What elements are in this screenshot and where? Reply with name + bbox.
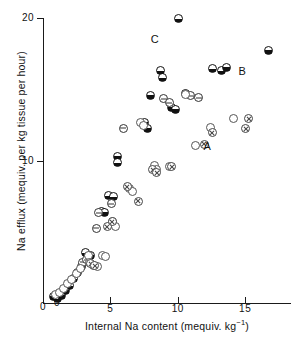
group-label-B: B xyxy=(238,65,246,77)
group-label-A: A xyxy=(203,140,211,152)
scatter-chart: 05101501020 Na efflux (mequiv. per kg ti… xyxy=(0,0,304,341)
y-tick-10 xyxy=(37,161,43,162)
y-tick-20 xyxy=(37,18,43,19)
data-point-circle-with-cross xyxy=(241,124,250,133)
x-tick-label-15: 15 xyxy=(235,304,255,314)
data-point-circle-with-bar xyxy=(92,224,101,233)
data-point-circle-with-cross xyxy=(152,168,161,177)
data-point-half-filled-circle xyxy=(222,63,231,72)
data-point-circle-with-cross xyxy=(167,162,176,171)
x-axis-label: Internal Na content (mequiv. kg−1) xyxy=(43,318,291,332)
data-point-open-circle xyxy=(101,252,110,261)
data-point-half-filled-circle xyxy=(174,14,183,23)
data-point-open-circle xyxy=(139,121,148,130)
data-point-half-filled-circle xyxy=(158,73,167,82)
x-tick-label-5: 5 xyxy=(100,304,120,314)
x-tick-label-10: 10 xyxy=(168,304,188,314)
data-point-circle-with-cross xyxy=(244,114,253,123)
data-point-half-filled-circle xyxy=(146,91,155,100)
data-point-circle-with-bar xyxy=(194,93,203,102)
data-point-half-filled-circle xyxy=(113,158,122,167)
data-point-circle-with-bar xyxy=(165,98,174,107)
data-point-open-circle xyxy=(229,114,238,123)
data-point-open-circle xyxy=(181,90,190,99)
data-point-open-circle xyxy=(76,264,85,273)
y-axis-label: Na efflux (mequiv. per kg tissue per hou… xyxy=(15,61,27,251)
data-point-circle-with-cross xyxy=(134,197,143,206)
y-axis-line xyxy=(43,18,44,304)
data-point-circle-with-bar xyxy=(107,199,116,208)
group-label-C: C xyxy=(151,33,159,45)
data-point-open-circle xyxy=(191,141,200,150)
data-point-circle-with-cross xyxy=(208,128,217,137)
data-point-half-filled-circle xyxy=(208,64,217,73)
y-tick-label-20: 20 xyxy=(0,13,34,23)
data-point-half-filled-circle xyxy=(264,46,273,55)
data-point-half-filled-circle xyxy=(171,105,180,114)
data-point-circle-with-bar xyxy=(119,124,128,133)
